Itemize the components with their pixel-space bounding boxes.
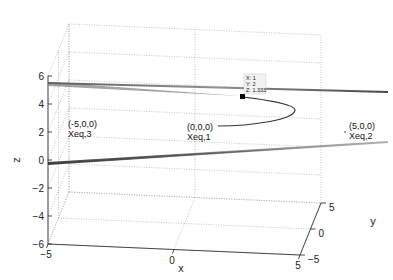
grid-line-floor-x: [174, 198, 195, 250]
z-tick-label: −4: [33, 211, 45, 222]
grid-lines: [48, 24, 321, 255]
y-axis-label: y: [370, 215, 376, 227]
z-axis-label: z: [10, 157, 22, 163]
trajectory-curve: [218, 97, 295, 126]
equilibrium-name-label: Xeq,3: [68, 129, 92, 139]
surface-plot[interactable]: −6−4−20246−505−505xyz X: 1Y: 2Z: 1.333(-…: [0, 0, 393, 280]
z-tick-label: 4: [38, 99, 44, 110]
z-tick-label: −2: [33, 183, 45, 194]
surfaces: [48, 82, 388, 165]
axes: −6−4−20246−505−505xyz: [10, 71, 376, 275]
z-tick-label: 2: [38, 127, 44, 138]
y-tick-label: 5: [329, 202, 335, 213]
x-tick: [299, 255, 301, 259]
x-tick-label: 5: [295, 260, 301, 271]
equilibrium-name-label: Xeq,1: [187, 132, 211, 142]
x-tick-label: 0: [169, 255, 175, 266]
y-tick-label: 0: [319, 228, 325, 239]
equilibrium-coords-label: (0,0,0): [187, 122, 213, 132]
equilibrium-coords-label: (-5,0,0): [68, 119, 97, 129]
x-axis-label: x: [178, 262, 184, 274]
z-tick-label: −6: [33, 239, 45, 250]
surface-lower-shade: [60, 148, 300, 163]
y-tick-label: −5: [308, 254, 320, 265]
z-tick-label: 0: [38, 155, 44, 166]
datatip-marker: [240, 94, 245, 99]
equilibrium-name-label: Xeq,2: [349, 131, 373, 141]
z-tick-label: 6: [38, 71, 44, 82]
curves: [218, 94, 295, 126]
datatip-z: Z: 1.333: [246, 87, 266, 93]
x-tick-label: −5: [40, 249, 52, 260]
x-tick: [47, 244, 49, 248]
x-tick: [173, 250, 175, 254]
equilibrium-coords-label: (5,0,0): [349, 121, 375, 131]
equilibrium-point-marker: [344, 131, 346, 133]
